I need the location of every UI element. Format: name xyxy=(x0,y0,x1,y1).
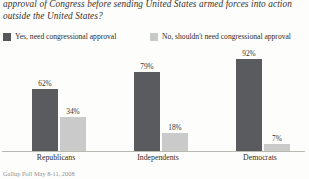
legend-label-yes: Yes, need congressional approval xyxy=(15,32,116,41)
bar-rect xyxy=(60,117,86,151)
x-axis-category-labels: Republicans Independents Democrats xyxy=(0,153,309,165)
source-note: Gallup Poll May 8-11, 2008 xyxy=(3,170,75,177)
plot-area: 62% 34% 79% 18% 92% 7% xyxy=(0,46,309,152)
bar-value-label: 62% xyxy=(26,79,64,88)
bar-group-democrats: 92% 7% xyxy=(214,47,306,151)
category-label-democrats: Democrats xyxy=(214,153,306,162)
bar-value-label: 92% xyxy=(230,49,268,58)
x-axis-baseline xyxy=(2,151,305,152)
legend-item-no: No, shouldn't need congressional approva… xyxy=(150,31,291,42)
chart-title: approval of Congress before sending Unit… xyxy=(3,0,303,23)
chart-legend: Yes, need congressional approval No, sho… xyxy=(3,31,306,42)
bar-rect xyxy=(162,133,188,151)
bar-value-label: 18% xyxy=(156,123,194,132)
bar-value-label: 79% xyxy=(128,62,166,71)
legend-item-yes: Yes, need congressional approval xyxy=(3,31,116,42)
legend-label-no: No, shouldn't need congressional approva… xyxy=(162,32,291,41)
bar-group-republicans: 62% 34% xyxy=(10,47,102,151)
title-line-2: outside the United States? xyxy=(3,10,303,22)
bar-group-independents: 79% 18% xyxy=(112,47,204,151)
legend-swatch-icon-no xyxy=(150,33,158,41)
chart-figure: approval of Congress before sending Unit… xyxy=(0,0,309,179)
title-line-1: approval of Congress before sending Unit… xyxy=(3,0,303,10)
category-label-republicans: Republicans xyxy=(10,153,102,162)
bar-value-label: 7% xyxy=(258,134,296,143)
bar-rect xyxy=(134,72,160,151)
legend-swatch-icon-yes xyxy=(3,33,11,41)
category-label-independents: Independents xyxy=(112,153,204,162)
bar-value-label: 34% xyxy=(54,107,92,116)
bar-rect xyxy=(32,89,58,151)
bar-rect xyxy=(264,144,290,151)
